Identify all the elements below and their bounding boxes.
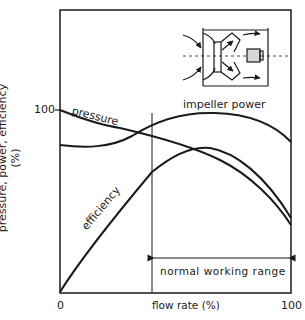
x-tick-label-100: 100	[281, 299, 302, 312]
y-axis-label-line2: (%)	[9, 84, 22, 232]
working-range-label: normal working range	[160, 265, 286, 277]
x-tick-label-0: 0	[57, 299, 64, 312]
y-axis-label: pressure, power, efficiency (%)	[0, 84, 22, 232]
fan-schematic-icon	[183, 28, 290, 86]
y-tick-label-100: 100	[34, 103, 55, 116]
impeller-power-label: impeller power	[183, 98, 265, 111]
x-axis-label: flow rate (%)	[152, 299, 220, 311]
y-axis-label-line1: pressure, power, efficiency	[0, 84, 9, 232]
